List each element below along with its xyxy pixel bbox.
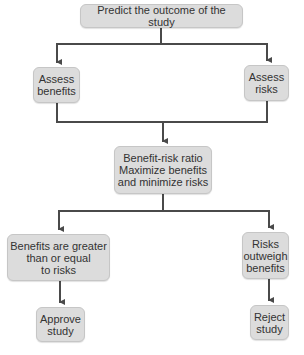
node-benefit-risk-ratio: Benefit-risk ratio Maximize benefits and…	[114, 146, 212, 194]
node-assess-benefits: Assess benefits	[33, 67, 80, 103]
node-predict-outcome: Predict the outcome of the study	[80, 4, 243, 28]
flowchart-canvas: Predict the outcome of the study Assess …	[0, 0, 304, 355]
node-risks-outweigh: Risks outweigh benefits	[242, 232, 289, 279]
node-approve-study: Approve study	[36, 307, 85, 342]
node-reject-study: Reject study	[250, 305, 289, 340]
node-assess-risks: Assess risks	[244, 65, 289, 101]
node-benefits-greater: Benefits are greater than or equal to ri…	[7, 234, 110, 281]
